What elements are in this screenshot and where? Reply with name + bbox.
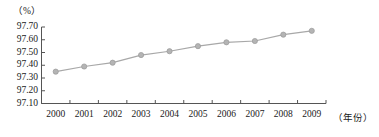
data-point-marker bbox=[252, 38, 257, 43]
data-point-marker bbox=[309, 28, 314, 33]
data-point-marker bbox=[110, 60, 115, 65]
data-point-marker bbox=[53, 69, 58, 74]
plot-area bbox=[0, 0, 379, 137]
data-point-marker bbox=[224, 40, 229, 45]
line-chart: （%） （年份） 97.7097.6097.5097.4097.3097.209… bbox=[0, 0, 379, 137]
x-axis-ticks bbox=[42, 100, 327, 104]
series-line bbox=[56, 31, 312, 72]
data-point-marker bbox=[195, 44, 200, 49]
data-point-marker bbox=[281, 32, 286, 37]
y-axis-ticks bbox=[42, 27, 46, 104]
data-point-marker bbox=[138, 52, 143, 57]
data-point-marker bbox=[82, 64, 87, 69]
data-point-marker bbox=[167, 49, 172, 54]
series-markers bbox=[53, 28, 314, 74]
